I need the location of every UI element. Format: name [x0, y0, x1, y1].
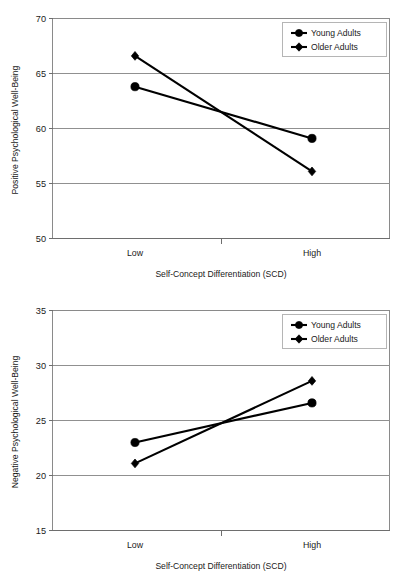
negative-x-cat-label-low: Low [127, 540, 144, 550]
negative-series-young-adults [131, 399, 316, 447]
chart-panel-positive: 70 65 60 55 50 Positive Psychological We… [0, 0, 403, 288]
y-tick-label: 25 [36, 416, 46, 426]
negative-y-ticks [49, 311, 53, 531]
positive-series-older-adults [131, 52, 315, 176]
negative-legend: Young Adults Older Adults [283, 315, 387, 349]
y-tick-label: 70 [36, 14, 46, 24]
legend-label-older-adults: Older Adults [311, 334, 358, 344]
y-tick-label: 50 [36, 234, 46, 244]
legend-label-young-adults: Young Adults [311, 320, 361, 330]
young-adults-line [135, 87, 312, 139]
negative-x-cat-label-high: High [303, 540, 321, 550]
positive-series-young-adults [131, 83, 316, 143]
legend-circle-icon [295, 29, 302, 36]
positive-y-axis-title: Positive Psychological Well-Being [10, 65, 20, 194]
legend-circle-icon [295, 321, 302, 328]
y-tick-label: 30 [36, 361, 46, 371]
positive-gridlines [53, 74, 390, 184]
y-tick-label: 65 [36, 69, 46, 79]
positive-legend: Young Adults Older Adults [283, 23, 387, 57]
older-adults-marker-high [308, 377, 315, 386]
young-adults-marker-low [131, 438, 139, 446]
two-panel-line-chart-figure: 70 65 60 55 50 Positive Psychological We… [0, 0, 403, 579]
negative-y-axis-title: Negative Psychological Well-Being [10, 355, 20, 488]
young-adults-marker-high [308, 399, 316, 407]
positive-y-ticks [49, 19, 53, 239]
chart-panel-negative: 35 30 25 20 15 Negative Psychological We… [0, 290, 403, 579]
legend-label-young-adults: Young Adults [311, 28, 361, 38]
positive-y-tick-labels: 70 65 60 55 50 [36, 14, 46, 244]
negative-chart-svg: 35 30 25 20 15 Negative Psychological We… [0, 290, 403, 579]
y-tick-label: 60 [36, 124, 46, 134]
y-tick-label: 15 [36, 526, 46, 536]
legend-label-older-adults: Older Adults [311, 42, 358, 52]
negative-x-axis-title: Self-Concept Differentiation (SCD) [155, 561, 286, 571]
positive-x-axis-title: Self-Concept Differentiation (SCD) [155, 269, 286, 279]
positive-x-cat-label-high: High [303, 248, 321, 258]
young-adults-marker-high [308, 134, 316, 142]
negative-y-tick-labels: 35 30 25 20 15 [36, 306, 46, 536]
y-tick-label: 35 [36, 306, 46, 316]
older-adults-marker-high [308, 167, 315, 176]
young-adults-marker-low [131, 83, 139, 91]
older-adults-marker-low [131, 459, 138, 468]
positive-x-cat-label-low: Low [127, 248, 144, 258]
negative-gridlines [53, 366, 390, 476]
y-tick-label: 20 [36, 471, 46, 481]
positive-chart-svg: 70 65 60 55 50 Positive Psychological We… [0, 0, 403, 288]
y-tick-label: 55 [36, 179, 46, 189]
older-adults-marker-low [131, 52, 138, 61]
young-adults-line [135, 403, 312, 443]
